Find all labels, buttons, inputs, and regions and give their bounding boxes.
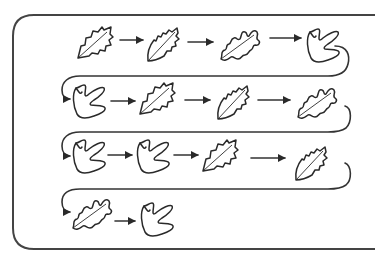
three-lobed-leaf-icon [73,140,105,173]
connector-row1-row2 [62,46,349,99]
oak-leaf-icon [221,31,259,60]
oak-leaf-icon [73,200,111,229]
serrated-leaf-icon [296,147,327,180]
holly-leaf-icon [140,83,175,114]
row-3 [73,140,327,180]
holly-leaf-icon [203,140,238,171]
three-lobed-leaf-icon [73,85,105,118]
three-lobed-leaf-icon [141,203,173,236]
three-lobed-leaf-icon [137,140,169,173]
row-1 [78,27,339,62]
holly-leaf-icon [78,27,113,58]
serrated-leaf-icon [148,28,179,61]
serrated-leaf-icon [218,86,249,119]
oak-leaf-icon [298,89,336,118]
leaf-sequence-diagram [0,0,375,260]
row-2 [73,83,336,119]
row-4 [73,200,173,236]
